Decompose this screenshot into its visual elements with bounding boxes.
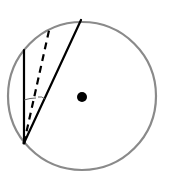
dashed-chord [24, 26, 50, 143]
center-point [77, 92, 87, 102]
slanted-chord [24, 20, 81, 143]
vertex-point [22, 141, 25, 144]
angle-arc-left [24, 98, 36, 100]
circle-diagram [0, 0, 171, 183]
